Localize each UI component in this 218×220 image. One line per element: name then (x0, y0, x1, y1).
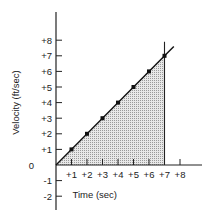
x-tick-label: +4 (113, 169, 124, 180)
x-tick-label: +7 (159, 169, 170, 180)
origin-label: 0 (29, 160, 34, 171)
y-tick-label: -1 (44, 175, 52, 186)
y-tick-label: +1 (41, 144, 52, 155)
data-point (132, 85, 136, 89)
data-point (163, 54, 167, 58)
x-tick-label: +6 (144, 169, 155, 180)
x-tick-label: +8 (175, 169, 186, 180)
data-point (70, 147, 74, 151)
velocity-time-chart: +1+2+3+4+5+6+7+8-1-20+1+2+3+4+5+6+7+8Tim… (0, 0, 218, 220)
y-tick-label: +8 (41, 35, 52, 46)
y-tick-label: +6 (41, 66, 52, 77)
y-tick-label: -2 (44, 191, 52, 202)
data-point (85, 132, 89, 136)
x-tick-label: +2 (82, 169, 93, 180)
data-point (116, 101, 120, 105)
data-point (147, 69, 151, 73)
y-tick-label: +3 (41, 113, 52, 124)
data-point (101, 116, 105, 120)
y-tick-label: +5 (41, 82, 52, 93)
x-tick-label: +5 (128, 169, 139, 180)
y-tick-label: +7 (41, 50, 52, 61)
y-axis-title: Velocity (ft/sec) (10, 70, 21, 134)
x-axis-title: Time (sec) (72, 189, 117, 200)
x-tick-label: +3 (97, 169, 108, 180)
y-tick-label: +4 (41, 97, 52, 108)
y-tick-label: +2 (41, 128, 52, 139)
x-tick-label: +1 (66, 169, 77, 180)
